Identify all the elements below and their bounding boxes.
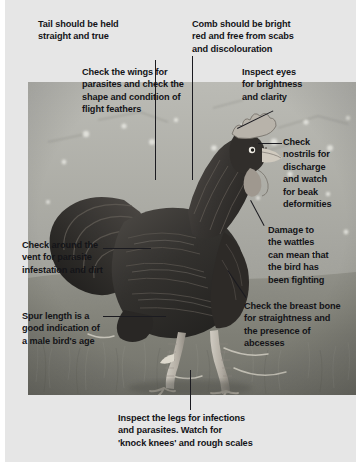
leader-line-nostrils xyxy=(258,143,282,144)
annotation-comb: Comb should be bright red and free from … xyxy=(192,18,322,55)
annotation-legs: Inspect the legs for infections and para… xyxy=(118,412,296,449)
annotation-nostrils: Check nostrils for discharge and watch f… xyxy=(283,136,347,210)
annotation-tail: Tail should be held straight and true xyxy=(38,18,156,43)
annotation-breast: Check the breast bone for straightness a… xyxy=(244,300,354,350)
annotation-vent: Check around the vent for parasite infes… xyxy=(22,239,134,276)
annotated-figure: Tail should be held straight and true Co… xyxy=(0,0,361,462)
leader-line-wings xyxy=(192,118,193,180)
annotation-wings: Check the wings for parasites and check … xyxy=(82,66,210,116)
annotation-wattles: Damage to the wattles can mean that the … xyxy=(268,224,348,286)
annotation-spur: Spur length is a good indication of a ma… xyxy=(22,310,128,347)
leader-line-legs xyxy=(190,370,191,410)
annotation-eyes: Inspect eyes for brightness and clarity xyxy=(242,66,324,103)
